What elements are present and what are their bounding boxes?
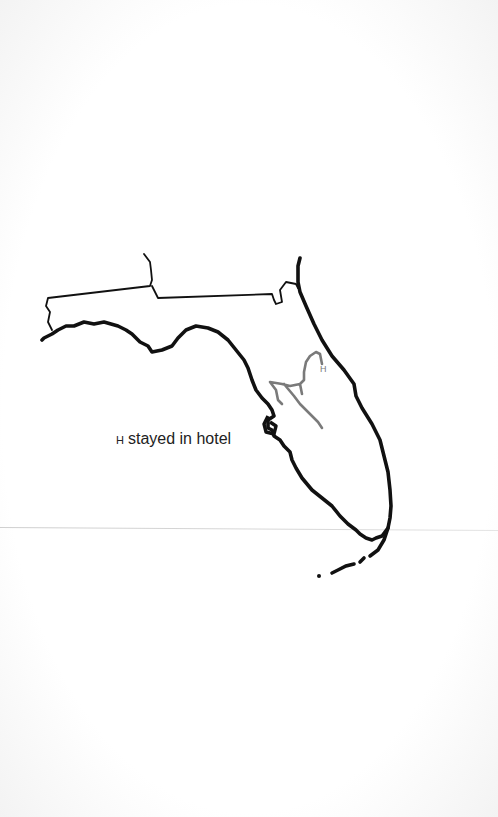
key-west-dot xyxy=(317,574,321,578)
florida-map: H xyxy=(0,0,498,817)
legend-label: stayed in hotel xyxy=(128,430,231,447)
coastline xyxy=(42,258,391,540)
legend-hotel-symbol: H xyxy=(116,434,124,446)
state-border-north xyxy=(46,254,298,330)
hotel-marker: H xyxy=(320,364,327,374)
map-legend: Hstayed in hotel xyxy=(116,430,231,448)
map-page: H Hstayed in hotel xyxy=(0,0,498,817)
travel-route xyxy=(270,352,322,428)
